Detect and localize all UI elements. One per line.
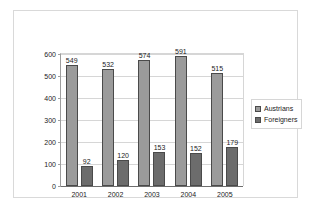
chart-canvas: 0100200300400500600549922001532120200257… [0, 0, 311, 209]
bar-group: 549922001 [61, 54, 97, 186]
bar-value-label: 549 [66, 57, 78, 64]
bar-group: 5151792005 [207, 54, 243, 186]
bar-value-label: 532 [102, 61, 114, 68]
chart-legend: Austrians Foreigners [251, 99, 302, 129]
bar-austrians-2002[interactable]: 532 [102, 69, 114, 186]
bar-foreigners-2005[interactable]: 179 [226, 147, 238, 186]
bar-value-label: 515 [211, 65, 223, 72]
bar-group: 5321202002 [97, 54, 133, 186]
bar-value-label: 120 [117, 152, 129, 159]
y-axis-tick-label: 300 [44, 117, 56, 124]
bar-austrians-2005[interactable]: 515 [211, 73, 223, 186]
x-axis-tick-label: 2003 [144, 191, 160, 198]
bar-group: 5741532003 [134, 54, 170, 186]
bar-value-label: 179 [226, 139, 238, 146]
x-axis-tick-label: 2002 [108, 191, 124, 198]
chart-outer-frame: 0100200300400500600549922001532120200257… [13, 10, 298, 198]
bar-austrians-2001[interactable]: 549 [66, 65, 78, 186]
bar-foreigners-2001[interactable]: 92 [81, 166, 93, 186]
bar-value-label: 153 [154, 144, 166, 151]
bar-value-label: 574 [139, 52, 151, 59]
x-axis-tick-label: 2004 [181, 191, 197, 198]
plot-area: 0100200300400500600549922001532120200257… [60, 53, 244, 186]
y-axis-tick-label: 500 [44, 73, 56, 80]
bar-value-label: 591 [175, 48, 187, 55]
legend-label-austrians: Austrians [264, 105, 293, 112]
x-axis-tick-label: 2005 [217, 191, 233, 198]
legend-label-foreigners: Foreigners [264, 116, 297, 123]
y-axis-tick-mark [58, 186, 61, 187]
y-axis-tick-label: 600 [44, 51, 56, 58]
y-axis-tick-label: 200 [44, 139, 56, 146]
bar-foreigners-2002[interactable]: 120 [117, 160, 129, 186]
x-axis-tick-label: 2001 [71, 191, 87, 198]
legend-swatch-austrians [255, 106, 261, 112]
y-axis-tick-label: 0 [52, 183, 56, 190]
bar-value-label: 152 [190, 145, 202, 152]
bar-group: 5911522004 [170, 54, 206, 186]
bar-value-label: 92 [83, 158, 91, 165]
y-axis-tick-label: 400 [44, 95, 56, 102]
bar-austrians-2003[interactable]: 574 [138, 60, 150, 186]
legend-item-foreigners[interactable]: Foreigners [255, 114, 297, 125]
bar-foreigners-2004[interactable]: 152 [190, 153, 202, 186]
x-axis-line [61, 186, 243, 187]
legend-item-austrians[interactable]: Austrians [255, 103, 297, 114]
legend-swatch-foreigners [255, 117, 261, 123]
y-axis-tick-label: 100 [44, 161, 56, 168]
bar-austrians-2004[interactable]: 591 [175, 56, 187, 186]
bar-foreigners-2003[interactable]: 153 [153, 152, 165, 186]
